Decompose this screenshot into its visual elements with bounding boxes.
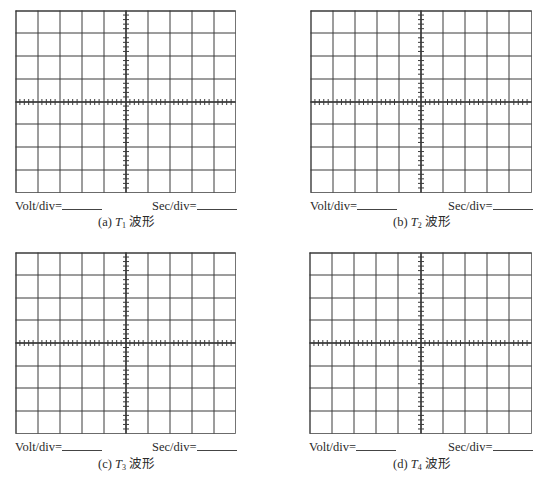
sec-div-field[interactable]: Sec/div= [448,439,533,454]
panel-caption: (d) T4 波形 [393,457,451,475]
sec-div-field[interactable]: Sec/div= [152,439,237,454]
sec-div-input[interactable] [197,198,237,210]
panel-caption: (a) T1 波形 [98,215,155,233]
volt-div-field[interactable]: Volt/div= [15,198,102,213]
volt-div-label: Volt/div= [310,199,357,213]
sec-div-label: Sec/div= [152,440,197,454]
panel-caption: (c) T3 波形 [98,457,155,475]
sec-div-label: Sec/div= [152,199,197,213]
panel-d: Volt/div= Sec/div= (d) T4 波形 [273,242,546,484]
oscilloscope-grid [309,252,532,434]
volt-div-field[interactable]: Volt/div= [15,439,102,454]
volt-div-input[interactable] [62,198,102,210]
sec-div-label: Sec/div= [448,440,493,454]
panel-caption: (b) T2 波形 [393,215,451,233]
panel-c: Volt/div= Sec/div= (c) T3 波形 [0,242,273,484]
panel-b: Volt/div= Sec/div= (b) T2 波形 [273,0,546,242]
oscilloscope-grid [15,10,236,193]
volt-div-input[interactable] [357,198,397,210]
sec-div-input[interactable] [197,439,237,451]
volt-div-label: Volt/div= [15,199,62,213]
sec-div-field[interactable]: Sec/div= [152,198,237,213]
sec-div-field[interactable]: Sec/div= [448,198,533,213]
volt-div-label: Volt/div= [15,440,62,454]
oscilloscope-grid [310,10,532,193]
volt-div-label: Volt/div= [309,440,356,454]
volt-div-input[interactable] [356,439,396,451]
sec-div-input[interactable] [493,439,533,451]
panel-a: Volt/div= Sec/div= (a) T1 波形 [0,0,273,242]
volt-div-field[interactable]: Volt/div= [309,439,396,454]
sec-div-input[interactable] [493,198,533,210]
sec-div-label: Sec/div= [448,199,493,213]
volt-div-field[interactable]: Volt/div= [310,198,397,213]
volt-div-input[interactable] [62,439,102,451]
oscilloscope-grid [15,252,236,434]
